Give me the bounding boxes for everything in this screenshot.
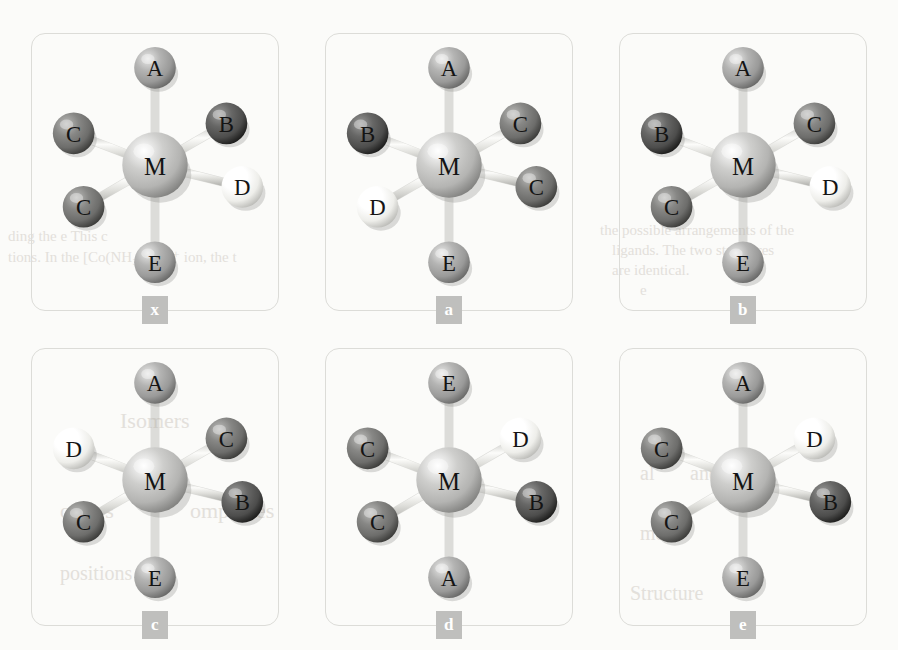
atom-label-upper_right: B — [219, 111, 234, 136]
atom-label-right: D — [822, 175, 838, 200]
molecule-diagram-e: ACDMCBE — [620, 349, 866, 625]
atom-label-center: M — [732, 467, 754, 494]
atom-label-lower_left: C — [664, 510, 679, 535]
panel-card: ABCMCDE b — [619, 33, 867, 311]
atom-center: M — [122, 132, 191, 202]
atom-right: B — [221, 481, 265, 526]
atom-label-right: B — [823, 490, 838, 515]
atom-label-bottom: E — [736, 565, 750, 590]
atom-bottom: E — [722, 556, 766, 601]
atom-label-center: M — [144, 467, 166, 494]
atom-label-upper_left: D — [65, 436, 81, 461]
atom-label-upper_left: B — [360, 121, 375, 146]
atom-center: M — [710, 132, 779, 202]
atom-label-right: B — [235, 490, 250, 515]
atom-center: M — [122, 447, 191, 517]
atom-label-center: M — [732, 152, 754, 179]
atom-label-top: A — [147, 56, 164, 81]
atom-label-top: E — [442, 371, 456, 396]
atom-label-lower_left: C — [664, 195, 679, 220]
atom-label-upper_right: D — [512, 426, 528, 451]
atom-top: A — [722, 362, 766, 407]
atom-top: A — [134, 362, 178, 407]
atom-top: E — [428, 362, 472, 407]
atom-label-top: A — [735, 371, 752, 396]
atom-label-right: C — [529, 175, 544, 200]
panel-badge-e: e — [730, 611, 756, 639]
atom-label-bottom: A — [441, 565, 458, 590]
atom-label-center: M — [438, 467, 460, 494]
atom-upper_right: C — [206, 417, 250, 462]
atom-label-upper_right: C — [807, 111, 822, 136]
molecule-svg: ACBMCDE — [32, 34, 278, 310]
atom-upper_right: B — [206, 102, 250, 147]
panel-d[interactable]: ECDMCBA d — [302, 329, 596, 644]
panel-badge-x: x — [142, 296, 168, 324]
atom-label-top: A — [441, 56, 458, 81]
panel-a[interactable]: ABCMDCE a — [302, 14, 596, 329]
atom-bottom: E — [428, 241, 472, 286]
atom-upper_right: C — [794, 102, 838, 147]
atom-top: A — [134, 47, 178, 92]
panel-card: ACBMCDE x — [31, 33, 279, 311]
atom-label-lower_left: C — [76, 195, 91, 220]
atom-label-lower_left: D — [369, 195, 385, 220]
molecule-diagram-d: ECDMCBA — [326, 349, 572, 625]
atom-upper_right: C — [500, 102, 544, 147]
atom-label-upper_left: C — [360, 436, 375, 461]
atom-label-center: M — [438, 152, 460, 179]
panel-grid: ACBMCDE x ABCMDCE a ABCMCDE b ADCMCBE c — [0, 0, 898, 650]
atom-right: B — [515, 481, 559, 526]
molecule-svg: ABCMCDE — [620, 34, 866, 310]
atom-label-bottom: E — [148, 565, 162, 590]
panel-x[interactable]: ACBMCDE x — [8, 14, 302, 329]
atom-right: D — [809, 166, 853, 211]
atom-upper_left: C — [347, 427, 391, 472]
panel-card: ADCMCBE c — [31, 348, 279, 626]
atom-label-top: A — [147, 371, 164, 396]
panel-c[interactable]: ADCMCBE c — [8, 329, 302, 644]
atom-right: B — [809, 481, 853, 526]
atom-upper_left: D — [53, 427, 97, 472]
atom-bottom: E — [134, 241, 178, 286]
molecule-diagram-b: ABCMCDE — [620, 34, 866, 310]
atom-upper_right: D — [794, 417, 838, 462]
panel-badge-c: c — [142, 611, 168, 639]
atom-center: M — [416, 132, 485, 202]
atom-top: A — [722, 47, 766, 92]
atom-label-right: B — [529, 490, 544, 515]
panel-card: ABCMDCE a — [325, 33, 573, 311]
molecule-diagram-c: ADCMCBE — [32, 349, 278, 625]
atom-bottom: E — [722, 241, 766, 286]
atom-label-upper_left: C — [654, 436, 669, 461]
atom-right: D — [221, 166, 265, 211]
molecule-diagram-x: ACBMCDE — [32, 34, 278, 310]
panel-card: ACDMCBE e — [619, 348, 867, 626]
molecule-diagram-a: ABCMDCE — [326, 34, 572, 310]
panel-badge-a: a — [436, 296, 462, 324]
atom-label-bottom: E — [736, 250, 750, 275]
atom-bottom: A — [428, 556, 472, 601]
molecule-svg: ECDMCBA — [326, 349, 572, 625]
atom-label-bottom: E — [442, 250, 456, 275]
panel-badge-d: d — [436, 611, 462, 639]
atom-bottom: E — [134, 556, 178, 601]
atom-label-right: D — [234, 175, 250, 200]
atom-label-upper_right: D — [806, 426, 822, 451]
atom-label-upper_right: C — [513, 111, 528, 136]
molecule-svg: ABCMDCE — [326, 34, 572, 310]
atom-top: A — [428, 47, 472, 92]
panel-e[interactable]: ACDMCBE e — [596, 329, 890, 644]
panel-b[interactable]: ABCMCDE b — [596, 14, 890, 329]
atom-upper_left: C — [641, 427, 685, 472]
molecule-svg: ACDMCBE — [620, 349, 866, 625]
atom-center: M — [710, 447, 779, 517]
atom-label-upper_left: C — [66, 121, 81, 146]
figure-page: ding the e This ctions. In the [Co(NH₃)₄… — [0, 0, 898, 650]
atom-label-upper_left: B — [654, 121, 669, 146]
panel-card: ECDMCBA d — [325, 348, 573, 626]
atom-right: C — [515, 166, 559, 211]
atom-upper_left: C — [53, 112, 97, 157]
molecule-svg: ADCMCBE — [32, 349, 278, 625]
atom-label-bottom: E — [148, 250, 162, 275]
